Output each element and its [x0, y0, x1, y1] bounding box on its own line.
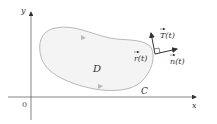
curve-label: C [141, 86, 148, 96]
tangent-vector-label: T(t) [160, 31, 175, 40]
y-axis-label: y [20, 6, 26, 15]
x-axis-label: x [192, 101, 197, 110]
origin-label: 0 [22, 100, 27, 109]
normal-vector [155, 49, 177, 54]
region-label: D [92, 63, 101, 74]
diagram-canvas: y x 0 D C r(t) T(t) n(t) [0, 0, 217, 124]
normal-vector-label: n(t) [170, 57, 185, 66]
position-vector-label: r(t) [134, 54, 147, 63]
